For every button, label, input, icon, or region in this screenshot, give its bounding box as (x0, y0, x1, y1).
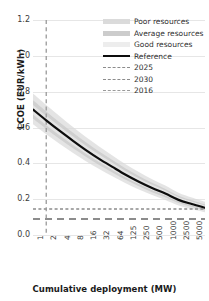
x-tick-label: 250 (142, 225, 151, 240)
legend-item[interactable]: Average resources (103, 28, 207, 40)
band-swatch-average-icon (103, 28, 130, 39)
x-tick-label: 4 (63, 235, 72, 240)
legend-label: Reference (134, 51, 172, 62)
dashed-line-swatch-2025-icon (103, 62, 130, 73)
x-tick-label: 1 (36, 235, 45, 240)
y-tick-label: 1.0 (6, 52, 30, 60)
x-tick-label: 2500 (182, 221, 191, 241)
dashed-line-swatch-2030-icon (103, 74, 130, 85)
chart-legend: Poor resourcesAverage resourcesGood reso… (103, 16, 207, 97)
y-tick-label: 0.2 (6, 195, 30, 203)
uncertainty-bands (33, 93, 205, 212)
band-swatch-poor-icon (103, 16, 130, 27)
legend-item[interactable]: 2016 (103, 85, 207, 97)
x-tick-label: 500 (155, 225, 164, 240)
legend-label: 2016 (134, 85, 153, 96)
dashed-line-swatch-2016-icon (103, 85, 130, 96)
x-tick-label: 64 (116, 230, 125, 240)
y-tick-label: 0.8 (6, 88, 30, 96)
legend-label: 2025 (134, 62, 153, 73)
x-tick-label: 16 (89, 230, 98, 240)
y-tick-label: 0.4 (6, 159, 30, 167)
x-tick-label: 2 (49, 235, 58, 240)
solid-line-swatch-icon (103, 51, 130, 62)
x-tick-label: 125 (129, 225, 138, 240)
x-tick-label: 32 (102, 230, 111, 240)
y-tick-label: 1.2 (6, 16, 30, 24)
x-tick-label: 8 (76, 235, 85, 240)
legend-item[interactable]: Poor resources (103, 16, 207, 28)
legend-item[interactable]: Good resources (103, 39, 207, 51)
legend-label: 2030 (134, 74, 153, 85)
x-tick-label: 5000 (195, 221, 204, 241)
legend-label: Good resources (134, 39, 192, 50)
y-tick-label: 0.6 (6, 124, 30, 132)
uncertainty-band (33, 93, 205, 212)
x-axis-title: Cumulative deployment (MW) (0, 284, 209, 294)
legend-label: Average resources (134, 28, 204, 39)
legend-label: Poor resources (134, 16, 189, 27)
x-tick-label: 10000 (208, 216, 209, 240)
y-tick-label: 0.0 (6, 231, 30, 239)
band-swatch-good-icon (103, 39, 130, 50)
lcoe-learning-curve-chart: LCOE (EUR/kWh) 0.00.20.40.60.81.01.2 124… (0, 0, 209, 301)
legend-item[interactable]: Reference (103, 51, 207, 63)
legend-item[interactable]: 2025 (103, 62, 207, 74)
x-tick-label: 1000 (169, 221, 178, 241)
legend-item[interactable]: 2030 (103, 74, 207, 86)
